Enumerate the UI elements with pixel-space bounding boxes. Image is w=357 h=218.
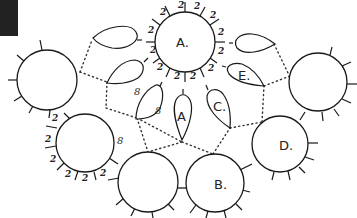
svg-text:2: 2 bbox=[193, 1, 200, 11]
svg-text:2: 2 bbox=[217, 27, 224, 37]
svg-text:2: 2 bbox=[156, 62, 163, 72]
chain-top-right bbox=[229, 34, 275, 52]
svg-text:8: 8 bbox=[117, 135, 123, 146]
chain-c-label: C. bbox=[213, 99, 226, 114]
chain-a-label: A bbox=[177, 109, 186, 124]
tatting-diagram: A. 2 2 2 2 2 2 2 2 2 2 2 2 bbox=[0, 0, 357, 218]
svg-text:2: 2 bbox=[173, 71, 180, 81]
chain-top-left bbox=[93, 26, 142, 48]
svg-text:2: 2 bbox=[207, 63, 214, 73]
svg-text:2: 2 bbox=[209, 10, 216, 20]
svg-text:2: 2 bbox=[217, 46, 224, 56]
svg-text:8: 8 bbox=[155, 105, 161, 116]
chain-e: E. bbox=[222, 63, 264, 86]
ring-b: B. bbox=[186, 154, 252, 218]
corner-dark-block bbox=[0, 0, 18, 36]
ring-right bbox=[289, 47, 357, 121]
chain-left bbox=[107, 58, 148, 83]
svg-text:2: 2 bbox=[177, 0, 184, 10]
chain-8: 8 8 bbox=[134, 82, 163, 119]
svg-text:8: 8 bbox=[134, 86, 140, 97]
svg-text:2: 2 bbox=[49, 154, 56, 164]
ring-b-label: B. bbox=[214, 177, 227, 192]
svg-text:2: 2 bbox=[149, 45, 156, 55]
ring-a-label: A. bbox=[176, 35, 189, 50]
ring-d: D. bbox=[252, 112, 318, 180]
svg-text:2: 2 bbox=[159, 7, 166, 17]
svg-text:2: 2 bbox=[81, 173, 88, 183]
ring-bottom-middle bbox=[108, 152, 186, 218]
svg-text:2: 2 bbox=[51, 113, 58, 123]
svg-text:2: 2 bbox=[64, 169, 71, 179]
ring-bottom-left: 2 2 2 2 2 2 8 bbox=[44, 113, 123, 183]
svg-text:2: 2 bbox=[44, 134, 51, 144]
chain-c: C. bbox=[206, 85, 230, 128]
ring-left bbox=[8, 40, 77, 118]
chain-e-label: E. bbox=[238, 68, 250, 83]
svg-text:2: 2 bbox=[99, 168, 106, 178]
svg-text:2: 2 bbox=[147, 25, 154, 35]
ring-a: A. 2 2 2 2 2 2 2 2 2 2 2 2 bbox=[146, 0, 225, 82]
svg-text:2: 2 bbox=[189, 71, 196, 81]
chain-a: A bbox=[174, 89, 191, 140]
ring-d-label: D. bbox=[279, 138, 293, 153]
